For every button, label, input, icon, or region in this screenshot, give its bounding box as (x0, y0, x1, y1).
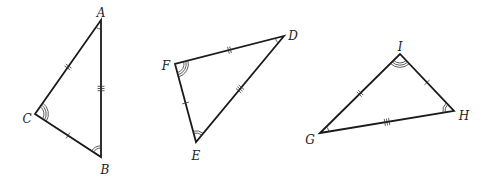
triangle-outline (175, 36, 284, 142)
triangle-def: DEF (161, 29, 298, 163)
vertex-label-f: F (161, 59, 171, 73)
vertex-label-i: I (397, 40, 403, 54)
angle-arc-g (326, 127, 328, 132)
side-tick-gh (384, 119, 385, 126)
vertex-label-d: D (287, 29, 298, 43)
side-tick-gh (389, 118, 390, 125)
vertex-label-b: B (100, 163, 110, 177)
angle-arc-i (394, 60, 407, 63)
vertex-label-c: C (22, 112, 31, 126)
triangle-ghi: GHI (305, 40, 470, 147)
vertex-label-e: E (191, 149, 201, 163)
angle-arc-i (392, 62, 408, 65)
congruent-triangles-diagram: ABCDEFGHI (0, 0, 495, 178)
triangle-outline (35, 20, 101, 157)
triangle-abc: ABC (22, 6, 109, 177)
angle-arc-b (93, 148, 101, 152)
vertex-label-a: A (96, 6, 106, 20)
vertex-label-h: H (458, 109, 470, 123)
side-tick-gh (386, 119, 387, 126)
angle-arc-d (275, 38, 278, 43)
vertex-label-g: G (305, 133, 315, 147)
